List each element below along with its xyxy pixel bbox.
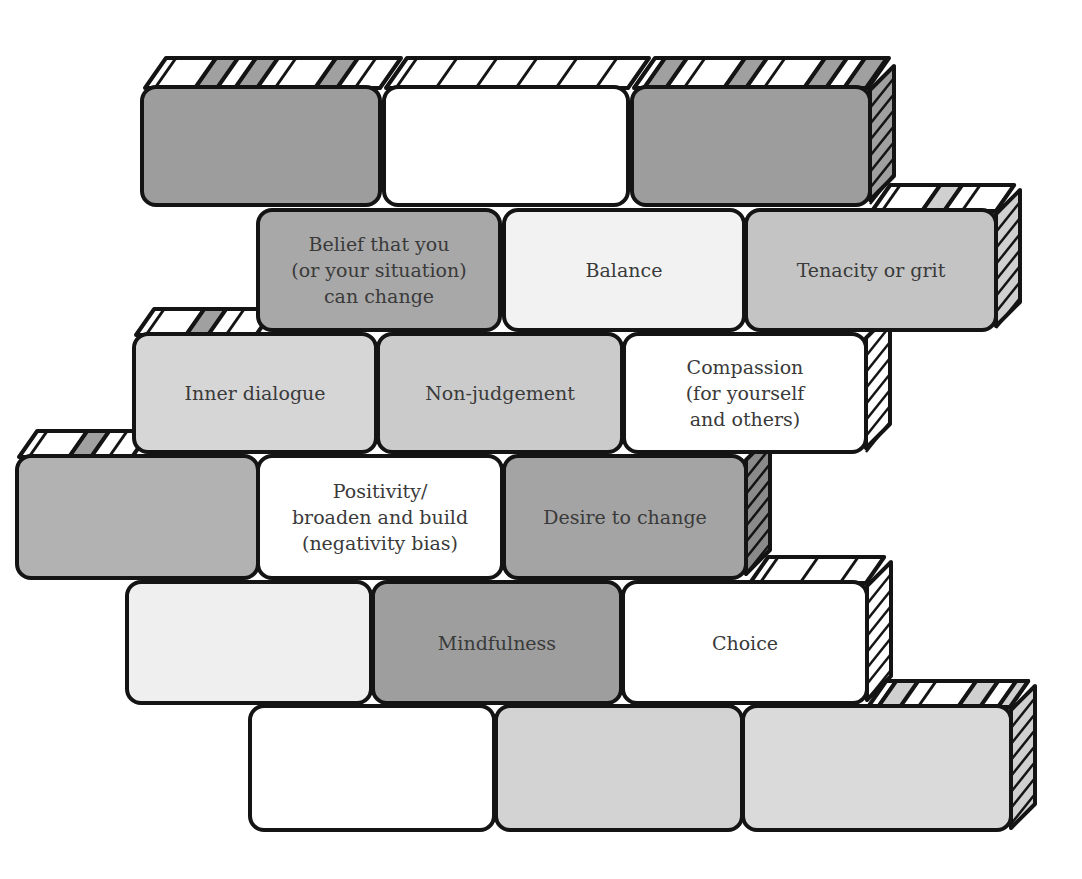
- brick-r1-b3: [630, 85, 872, 207]
- brick-desire-to-change: Desire to change: [502, 454, 748, 580]
- brick-tenacity: Tenacity or grit: [744, 208, 998, 332]
- brick-r6-b2: [494, 704, 744, 832]
- brick-non-judgement: Non-judgement: [376, 332, 624, 454]
- brick-r1-b1: [140, 85, 382, 207]
- brick-positivity: Positivity/ broaden and build (negativit…: [256, 454, 504, 580]
- brick-r5-b1: [125, 580, 373, 705]
- brick-r6-b1: [248, 704, 496, 832]
- brick-wall-diagram: Belief that you (or your situation) can …: [0, 0, 1082, 879]
- brick-belief-change: Belief that you (or your situation) can …: [256, 208, 502, 332]
- brick-inner-dialogue: Inner dialogue: [132, 332, 378, 454]
- brick-r4-b1: [15, 454, 260, 580]
- brick-compassion: Compassion (for yourself and others): [622, 332, 868, 454]
- brick-choice: Choice: [621, 580, 869, 705]
- brick-r6-b3: [741, 704, 1013, 832]
- brick-r1-b2: [382, 85, 630, 207]
- brick-mindfulness: Mindfulness: [371, 580, 623, 705]
- brick-balance: Balance: [502, 208, 746, 332]
